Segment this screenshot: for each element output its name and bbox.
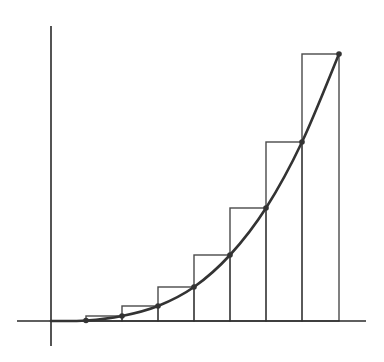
sample-point [155,303,161,309]
diagram-canvas [0,0,384,362]
function-curve [51,54,339,321]
riemann-rectangle [230,208,266,321]
riemann-sum-diagram [0,0,384,362]
riemann-rectangle [266,142,302,321]
riemann-rectangle [302,54,339,321]
sample-points [83,51,342,323]
sample-point [119,313,125,319]
riemann-rectangles [86,54,339,321]
sample-point [336,51,342,57]
sample-point [191,284,197,290]
sample-point [83,318,89,324]
sample-point [227,252,233,258]
sample-point [263,205,269,211]
riemann-rectangle [194,255,230,321]
sample-point [299,139,305,145]
